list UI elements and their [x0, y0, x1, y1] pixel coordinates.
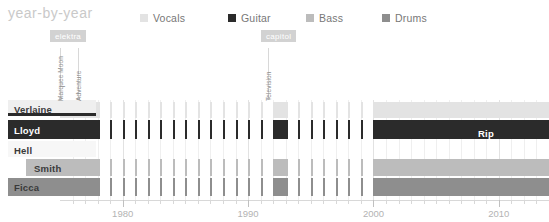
- timeline-tick: [123, 178, 125, 196]
- axis-tick-minor: [198, 200, 199, 204]
- axis-tick-label: 1980: [112, 208, 133, 219]
- timeline-tick: [123, 120, 125, 139]
- timeline-tick: [185, 178, 187, 196]
- timeline-tick: [110, 102, 112, 118]
- legend-item-guitar[interactable]: Guitar: [228, 8, 271, 20]
- annotation-label: Adventure: [75, 70, 82, 101]
- timeline-tick: [198, 102, 200, 118]
- timeline-tick: [173, 178, 175, 196]
- year-by-year-timeline-chart: year-by-year VocalsGuitarBassDrums elekt…: [0, 0, 549, 222]
- timeline-tick: [148, 178, 150, 196]
- axis-tick-minor: [236, 200, 237, 204]
- timeline-tick: [336, 159, 338, 176]
- timeline-tick: [311, 102, 313, 118]
- timeline-tick: [298, 178, 300, 196]
- axis-tick-minor: [511, 200, 512, 204]
- axis-tick-major: [123, 200, 124, 207]
- timeline-tick: [348, 159, 350, 176]
- axis-tick-major: [373, 200, 374, 207]
- timeline-tick: [98, 159, 100, 176]
- timeline-segment: [373, 159, 549, 176]
- timeline-tick: [185, 159, 187, 176]
- page-title: year-by-year: [8, 5, 93, 21]
- axis-tick-minor: [386, 200, 387, 204]
- timeline-tick: [110, 178, 112, 196]
- timeline-segment: [273, 102, 286, 118]
- timeline-tick: [236, 120, 238, 139]
- timeline-tick: [323, 102, 325, 118]
- timeline-tick: [286, 178, 288, 196]
- annotation-label: Marquee Moon: [57, 56, 64, 101]
- axis-tick-minor: [210, 200, 211, 204]
- timeline-tick: [110, 120, 112, 139]
- timeline-segment: [273, 120, 286, 139]
- axis-tick-minor: [273, 200, 274, 204]
- timeline-tick: [135, 178, 137, 196]
- axis-tick-minor: [85, 200, 86, 204]
- axis-tick-minor: [399, 200, 400, 204]
- timeline-tick: [173, 159, 175, 176]
- timeline-tick: [135, 120, 137, 139]
- timeline-tick: [298, 102, 300, 118]
- axis-tick-minor: [474, 200, 475, 204]
- timeline-tick: [248, 159, 250, 176]
- timeline-tick: [361, 120, 363, 139]
- axis-tick-minor: [98, 200, 99, 204]
- timeline-tick: [311, 178, 313, 196]
- legend-swatch-icon: [382, 14, 390, 22]
- timeline-tick: [223, 102, 225, 118]
- timeline-tick: [261, 102, 263, 118]
- axis-tick-minor: [135, 200, 136, 204]
- axis-tick-minor: [311, 200, 312, 204]
- timeline-tick: [198, 178, 200, 196]
- axis-tick-minor: [411, 200, 412, 204]
- timeline-tick: [160, 159, 162, 176]
- legend-label: Bass: [319, 12, 343, 24]
- timeline-tick: [223, 120, 225, 139]
- legend-item-drums[interactable]: Drums: [382, 8, 427, 20]
- timeline-tick: [98, 120, 100, 139]
- timeline-tick: [323, 178, 325, 196]
- axis-line: [60, 200, 549, 201]
- timeline-tick: [336, 120, 338, 139]
- timeline-segment: [461, 120, 549, 139]
- inline-row-label: Rip: [478, 128, 494, 139]
- legend-label: Vocals: [153, 12, 185, 24]
- axis-tick-minor: [261, 200, 262, 204]
- row-label: Verlaine: [14, 104, 52, 115]
- label-badge[interactable]: capitol: [261, 30, 296, 42]
- legend-item-bass[interactable]: Bass: [306, 8, 343, 20]
- row-label: Hell: [14, 145, 32, 156]
- timeline-tick: [311, 159, 313, 176]
- timeline-tick: [236, 178, 238, 196]
- legend-item-vocals[interactable]: Vocals: [140, 8, 185, 20]
- timeline-tick: [248, 120, 250, 139]
- timeline-tick: [223, 178, 225, 196]
- timeline-segment: [273, 178, 286, 196]
- legend-label: Drums: [395, 12, 427, 24]
- timeline-tick: [311, 120, 313, 139]
- axis-tick-minor: [486, 200, 487, 204]
- axis-tick-minor: [298, 200, 299, 204]
- axis-tick-minor: [160, 200, 161, 204]
- axis-tick-label: 2000: [363, 208, 384, 219]
- timeline-tick: [348, 120, 350, 139]
- timeline-tick: [348, 102, 350, 118]
- timeline-tick: [223, 159, 225, 176]
- timeline-tick: [173, 102, 175, 118]
- timeline-tick: [98, 102, 100, 118]
- row-label: Lloyd: [14, 125, 40, 136]
- timeline-tick: [210, 102, 212, 118]
- axis-tick-minor: [424, 200, 425, 204]
- timeline-tick: [198, 159, 200, 176]
- timeline-tick: [323, 120, 325, 139]
- axis-tick-label: 2010: [488, 208, 509, 219]
- timeline-tick: [361, 178, 363, 196]
- axis-tick-minor: [436, 200, 437, 204]
- timeline-tick: [135, 159, 137, 176]
- label-badge[interactable]: elektra: [50, 30, 86, 42]
- timeline-tick: [98, 178, 100, 196]
- timeline-tick: [210, 178, 212, 196]
- timeline-tick: [160, 102, 162, 118]
- row-label: Ficca: [14, 182, 39, 193]
